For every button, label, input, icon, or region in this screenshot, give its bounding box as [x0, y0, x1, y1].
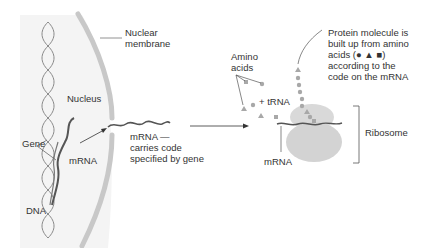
mrna-caption: mRNA — carries code specified by gene: [130, 131, 204, 164]
mrna-label-left: mRNA: [69, 155, 97, 166]
nuclear-membrane-label-line1: Nuclear: [125, 27, 170, 38]
mrna-caption-line2: carries code: [130, 142, 204, 153]
trna-label: + tRNA: [259, 96, 290, 107]
nuclear-membrane-label: Nuclear membrane: [125, 27, 170, 49]
exported-mrna: [108, 121, 170, 127]
protein-caption-line5: code on the mRNA: [328, 71, 409, 82]
protein-caption-line2: built up from amino: [328, 38, 409, 49]
translation-arrow-head: [243, 124, 249, 129]
mrna-caption-line1: mRNA —: [130, 131, 204, 142]
amino-acids-label: Amino acids: [231, 51, 258, 73]
amino-acids-label-line1: Amino: [231, 51, 258, 62]
protein-caption-line3: acids (● ▲ ■): [328, 49, 409, 60]
gene-label: Gene: [22, 138, 45, 149]
protein-caption: Protein molecule is built up from amino …: [328, 27, 409, 82]
ribosome-bracket: [353, 106, 359, 163]
nucleus-label: Nucleus: [67, 93, 101, 104]
mrna-label-bottom: mRNA: [264, 156, 292, 167]
amino-acid-pointers: [236, 75, 261, 105]
nuclear-membrane-label-line2: membrane: [125, 38, 170, 49]
ribosome-large-subunit: [286, 122, 342, 162]
protein-caption-line4: according to the: [328, 60, 409, 71]
protein-synthesis-diagram: Nuclear membrane Nucleus Gene mRNA DNA m…: [0, 0, 429, 248]
ribosome-label: Ribosome: [365, 127, 408, 138]
protein-caption-pointer: [298, 30, 322, 64]
mrna-caption-line3: specified by gene: [130, 153, 204, 164]
protein-caption-line1: Protein molecule is: [328, 27, 409, 38]
dna-label: DNA: [26, 205, 46, 216]
amino-acids-label-line2: acids: [231, 62, 258, 73]
